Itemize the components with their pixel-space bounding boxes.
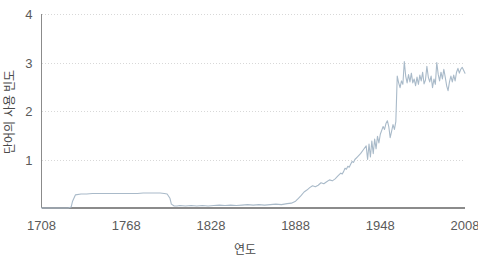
x-tick-label: 1768: [112, 218, 141, 233]
x-tick-label: 2008: [451, 218, 478, 233]
x-axis-tick-labels: 170817681828188819482008: [27, 218, 478, 233]
data-series-group: [42, 62, 466, 208]
y-axis-title: 단어의 사용 빈도: [3, 70, 17, 155]
x-tick-label: 1948: [366, 218, 395, 233]
frequency-line: [42, 62, 466, 208]
chart-canvas: 1234 170817681828188819482008 연도 단어의 사용 …: [0, 0, 478, 264]
x-axis-title: 연도: [234, 243, 256, 257]
y-tick-label: 2: [25, 104, 32, 119]
x-tick-label: 1888: [281, 218, 310, 233]
ngram-chart: 1234 170817681828188819482008 연도 단어의 사용 …: [0, 0, 478, 264]
gridlines: [42, 15, 466, 161]
y-tick-label: 3: [25, 56, 32, 71]
x-tick-label: 1708: [27, 218, 56, 233]
x-tick-label: 1828: [196, 218, 225, 233]
y-tick-label: 1: [25, 153, 32, 168]
y-axis-tick-labels: 1234: [25, 7, 32, 168]
y-tick-label: 4: [25, 7, 32, 22]
